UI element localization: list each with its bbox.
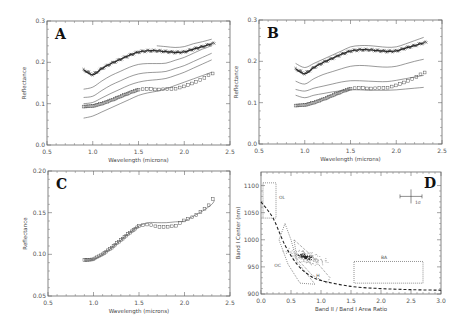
- data-point: [317, 264, 318, 265]
- region-label-ba: BA: [381, 255, 388, 260]
- data-point: [300, 254, 301, 255]
- y-tick-label: 0.2: [247, 57, 257, 64]
- square-marker: [174, 87, 177, 90]
- data-point: [297, 255, 298, 256]
- y-tick-label: 0.3: [247, 16, 257, 23]
- data-point: [299, 250, 300, 251]
- data-point: [290, 251, 291, 252]
- square-marker: [182, 85, 185, 88]
- square-marker: [334, 93, 337, 96]
- data-point: [292, 253, 293, 254]
- region-label-ol: OL: [279, 195, 286, 200]
- data-point: [295, 253, 296, 254]
- trend-curve: [261, 202, 441, 290]
- square-marker: [390, 85, 393, 88]
- square-marker: [366, 87, 369, 90]
- square-marker: [207, 74, 210, 77]
- data-point: [294, 256, 295, 257]
- y-tick-label: 900: [248, 290, 260, 297]
- data-point: [286, 253, 287, 254]
- y-tick-label: 0.1: [247, 99, 257, 106]
- square-marker: [111, 98, 114, 101]
- model-spectrum-line: [84, 200, 214, 260]
- x-tick-label: 1.0: [88, 148, 98, 155]
- data-point: [302, 258, 303, 259]
- square-marker: [336, 92, 339, 95]
- panel-label: C: [56, 176, 67, 192]
- region-ba: [354, 261, 423, 283]
- y-axis-label: Reflectance: [233, 65, 239, 98]
- square-marker: [323, 97, 326, 100]
- square-marker: [170, 88, 173, 91]
- square-marker: [82, 105, 85, 108]
- x-tick-label: 1.5: [346, 297, 356, 304]
- square-marker: [203, 76, 206, 79]
- y-tick-label: 0.10: [33, 250, 47, 257]
- square-marker: [119, 95, 122, 98]
- square-marker: [296, 104, 299, 107]
- data-point: [299, 257, 300, 258]
- data-point: [307, 260, 308, 261]
- y-tick-label: 0.05: [33, 292, 47, 299]
- data-point: [296, 251, 297, 252]
- square-marker: [302, 104, 305, 107]
- x-tick-label: 3.0: [436, 297, 446, 304]
- x-tick-label: 1.0: [316, 297, 326, 304]
- square-marker: [195, 80, 198, 83]
- square-marker: [106, 100, 109, 103]
- data-point: [313, 260, 314, 261]
- square-marker: [102, 102, 105, 105]
- data-point: [289, 248, 290, 249]
- square-marker: [187, 84, 190, 87]
- square-marker: [141, 88, 144, 91]
- panel-label: A: [54, 26, 67, 42]
- data-point: [287, 251, 288, 252]
- data-point: [307, 255, 308, 256]
- square-marker: [199, 79, 202, 82]
- square-marker: [108, 100, 111, 103]
- figure: 0.51.01.52.02.50.00.10.20.3Wavelength (m…: [0, 0, 469, 327]
- y-axis-label: Reflectance: [21, 66, 27, 99]
- panel-a: 0.51.01.52.02.50.00.10.20.3Wavelength (m…: [21, 17, 235, 164]
- data-point: [294, 254, 295, 255]
- y-tick-label: 950: [248, 263, 260, 270]
- square-marker: [333, 93, 336, 96]
- data-point: [310, 252, 311, 253]
- data-point: [309, 260, 310, 261]
- data-point: [298, 251, 299, 252]
- data-point: [301, 261, 302, 262]
- y-tick-label: 0.2: [35, 58, 45, 65]
- square-marker: [394, 84, 397, 87]
- data-point: [295, 258, 296, 259]
- square-marker: [357, 86, 360, 89]
- data-point: [304, 252, 305, 253]
- x-tick-label: 2.5: [437, 147, 447, 154]
- x-tick-label: 1.5: [346, 147, 356, 154]
- y-tick-label: 0.20: [33, 167, 47, 174]
- y-axis-label: Band I Center (nm): [235, 207, 241, 260]
- model-spectrum-line: [296, 37, 424, 67]
- data-point: [303, 261, 304, 262]
- square-marker: [329, 95, 332, 98]
- square-marker: [407, 79, 410, 82]
- data-point: [286, 251, 287, 252]
- panel-label: B: [267, 25, 279, 41]
- data-point: [301, 255, 302, 256]
- error-bar-label: 1σ: [415, 200, 421, 205]
- y-tick-label: 1100: [244, 182, 259, 189]
- data-point: [293, 249, 294, 250]
- data-point: [297, 254, 298, 255]
- data-point: [317, 261, 318, 262]
- data-point: [308, 261, 309, 262]
- data-point: [311, 253, 312, 254]
- square-marker: [174, 224, 177, 227]
- square-marker: [132, 90, 135, 93]
- data-point: [313, 261, 314, 262]
- square-marker: [149, 88, 152, 91]
- data-point: [301, 254, 302, 255]
- model-spectrum-line: [84, 60, 212, 104]
- data-point: [302, 251, 303, 252]
- data-point: [315, 259, 316, 260]
- panel-label: D: [424, 175, 436, 191]
- square-marker: [353, 87, 356, 90]
